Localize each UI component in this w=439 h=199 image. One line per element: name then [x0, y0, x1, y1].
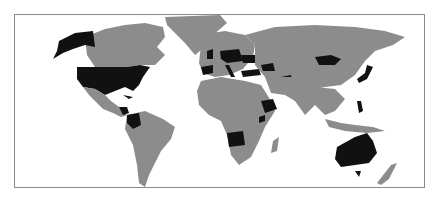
country-australia-tasmania	[355, 171, 361, 177]
country-ukraine	[241, 55, 257, 63]
world-map	[15, 15, 425, 188]
country-turkey	[241, 69, 261, 77]
country-angola	[227, 131, 245, 147]
new-zealand	[377, 163, 397, 185]
canada	[85, 23, 165, 67]
country-philippines	[357, 101, 363, 113]
country-cuba	[123, 95, 133, 99]
indonesia	[325, 119, 385, 133]
country-australia	[335, 133, 377, 167]
map-frame	[14, 14, 425, 188]
madagascar	[271, 137, 279, 153]
